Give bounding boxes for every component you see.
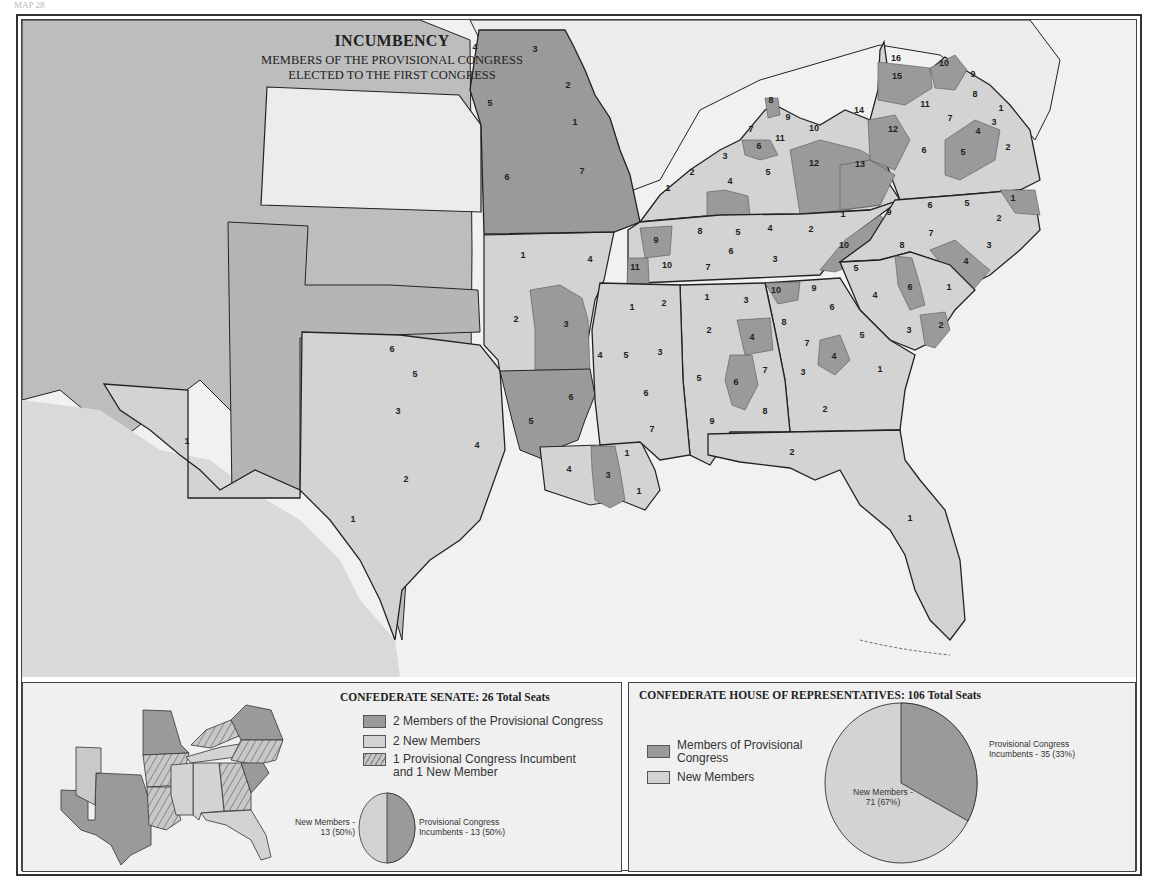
tennessee-district-label: 4 — [767, 223, 772, 233]
house-pie-label-incumbent: Provisional Congress Incumbents - 35 (33… — [989, 739, 1075, 759]
kentucky-district-label: 1 — [665, 183, 670, 193]
georgia-district-label: 10 — [771, 285, 781, 295]
georgia-district-label: 5 — [859, 330, 864, 340]
tennessee-district-label: 7 — [705, 262, 710, 272]
kentucky-district-label: 11 — [775, 133, 785, 143]
virginia-district-label: 2 — [1005, 142, 1010, 152]
sc-district-2 — [920, 312, 950, 348]
kentucky-district-label: 9 — [785, 112, 790, 122]
kentucky-district-label: 4 — [727, 176, 732, 186]
house-pie-chart — [822, 701, 982, 866]
mini-florida — [201, 810, 271, 860]
virginia-district-label: 9 — [970, 69, 975, 79]
tennessee-district-label: 2 — [808, 224, 813, 234]
alabama-district-label: 6 — [733, 377, 738, 387]
map-title: INCUMBENCY — [222, 32, 562, 50]
virginia-district-label: 1 — [998, 103, 1003, 113]
arkansas-district-label: 2 — [513, 314, 518, 324]
alabama-district-label: 2 — [706, 325, 711, 335]
virginia-district-label: 4 — [975, 126, 980, 136]
kentucky-district-label: 6 — [756, 141, 761, 151]
senate-title: CONFEDERATE SENATE: 26 Total Seats — [340, 691, 550, 703]
pie-label-line2: Incumbents - 13 (50%) — [419, 827, 505, 837]
senate-pie-chart — [357, 791, 417, 866]
alabama-district-label: 5 — [696, 373, 701, 383]
louisiana-district-label: 1 — [636, 486, 641, 496]
virginia-district-label: 15 — [892, 71, 902, 81]
legend-label: 1 Provisional Congress Incumbent and 1 N… — [393, 753, 576, 779]
pie-label-line2: Incumbents - 35 (33%) — [989, 749, 1075, 759]
kansas — [261, 87, 481, 212]
senate-pie-label-new: New Members - 13 (50%) — [293, 817, 355, 837]
georgia-district-label: 7 — [804, 338, 809, 348]
legend-label-line2: and 1 New Member — [393, 765, 498, 779]
main-map: 4321567891071161213143254116101598111731… — [22, 20, 1136, 677]
swatch-hatch — [363, 753, 386, 766]
senate-legend-new: 2 New Members — [363, 735, 480, 748]
kentucky-district-label: 2 — [689, 167, 694, 177]
south_carolina-district-label: 3 — [906, 325, 911, 335]
north_carolina-district-label: 7 — [928, 228, 933, 238]
florida-district-label: 2 — [789, 447, 794, 457]
north_carolina-district-label: 8 — [899, 240, 904, 250]
mississippi-district-label: 3 — [657, 347, 662, 357]
virginia-district-label: 11 — [920, 99, 930, 109]
missouri-district-label: 1 — [572, 117, 577, 127]
mini-north-carolina — [231, 740, 283, 765]
legend-label: New Members — [677, 771, 754, 784]
alabama-district-label: 9 — [709, 416, 714, 426]
mississippi-district-label: 5 — [623, 350, 628, 360]
tennessee-district-label: 1 — [840, 209, 845, 219]
senate-legend-mixed: 1 Provisional Congress Incumbent and 1 N… — [363, 753, 576, 779]
mini-missouri — [143, 710, 189, 755]
senate-legend-incumbents: 2 Members of the Provisional Congress — [363, 715, 603, 728]
legend-label-line1: 1 Provisional Congress Incumbent — [393, 752, 576, 766]
kentucky-district-label: 10 — [809, 123, 819, 133]
texas-district-label: 1 — [184, 436, 189, 446]
louisiana-district-label: 4 — [566, 464, 571, 474]
virginia-district-label: 10 — [939, 58, 949, 68]
kentucky-district-label: 13 — [855, 159, 865, 169]
texas-district-label: 1 — [350, 514, 355, 524]
legend-label-line2: Congress — [677, 751, 728, 765]
texas-district-label: 6 — [389, 344, 394, 354]
house-pie-label-new: New Members - 71 (67%) — [848, 787, 918, 807]
georgia-district-label: 6 — [829, 302, 834, 312]
texas-district-label: 3 — [395, 406, 400, 416]
page-label: MAP 28 — [14, 0, 44, 10]
pie-label-line1: Provisional Congress — [419, 817, 499, 827]
senate-mini-map — [31, 685, 321, 870]
north_carolina-district-label: 5 — [964, 198, 969, 208]
kentucky-district-label: 3 — [722, 151, 727, 161]
pie-label-line1: New Members - — [295, 817, 355, 827]
swatch-dark — [647, 745, 670, 758]
gulf-dashed-line — [860, 640, 950, 655]
alabama-district-label: 1 — [704, 292, 709, 302]
tennessee-district-label: 11 — [630, 262, 640, 272]
kentucky-district-label: 14 — [854, 105, 864, 115]
south_carolina-district-label: 4 — [872, 290, 877, 300]
arkansas-district-label: 5 — [528, 416, 533, 426]
tennessee-district-label: 9 — [653, 235, 658, 245]
senate-panel: CONFEDERATE SENATE: 26 Total Seats 2 Mem… — [22, 682, 622, 872]
north_carolina-district-label: 4 — [963, 256, 968, 266]
north_carolina-district-label: 1 — [1010, 193, 1015, 203]
map-svg: 4321567891071161213143254116101598111731… — [22, 20, 1136, 677]
alabama-district-label: 3 — [743, 295, 748, 305]
mississippi-district-label: 1 — [629, 302, 634, 312]
alabama-district-label: 7 — [762, 365, 767, 375]
mini-texas — [61, 773, 151, 865]
virginia-district-label: 5 — [960, 147, 965, 157]
mini-mississippi — [171, 763, 193, 815]
mississippi-district-label: 6 — [643, 388, 648, 398]
house-panel: CONFEDERATE HOUSE OF REPRESENTATIVES: 10… — [628, 682, 1136, 872]
georgia-district-label: 2 — [822, 404, 827, 414]
georgia-district-label: 8 — [781, 317, 786, 327]
legend-label: Members of Provisional Congress — [677, 739, 802, 765]
georgia-district-label: 3 — [800, 367, 805, 377]
kentucky-district-label: 7 — [748, 124, 753, 134]
house-legend-incumbents: Members of Provisional Congress — [647, 739, 802, 765]
virginia-district-label: 3 — [991, 117, 996, 127]
south_carolina-district-label: 5 — [853, 263, 858, 273]
georgia-district-label: 1 — [877, 364, 882, 374]
